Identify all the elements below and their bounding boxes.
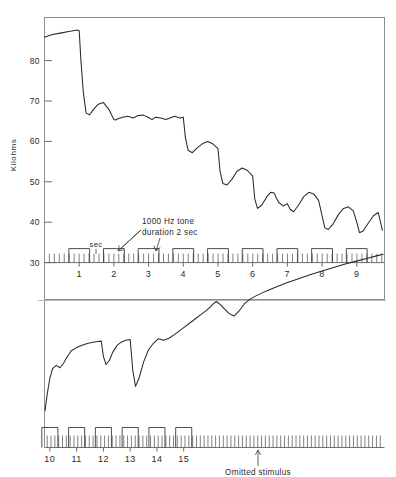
figure-canvas: 80 70 60 50 40 [0,0,396,477]
stimulus-block [176,428,192,448]
x-tick-label: 11 [71,454,81,464]
stimulus-block [149,428,165,448]
x-tick-label: 6 [250,269,256,279]
upper-panel-trace [45,30,383,233]
stimulus-block [95,428,111,448]
lower-stimulus-blocks [42,428,192,448]
y-tick-50: 50 [30,177,52,187]
tone-annotation-line-1: 1000 Hz tone [142,217,194,226]
lower-second-ticks [47,436,380,448]
lower-x-tick-labels: 101112131415 [44,448,189,464]
y-tick-label-40: 40 [30,217,40,227]
sec-label: sec [89,240,102,249]
y-tick-label-30: 30 [30,258,40,268]
y-tick-70: 70 [30,96,52,106]
x-tick-label: 3 [146,269,152,279]
x-tick-label: 4 [181,269,187,279]
x-tick-label: 15 [178,454,189,464]
x-tick-label: 12 [98,454,109,464]
y-tick-40: 40 [30,217,52,227]
y-tick-60: 60 [30,136,52,146]
omitted-stimulus-label: Omitted stimulus [225,468,291,477]
tone-annotation-line-2: duration 2 sec [142,228,198,237]
lower-panel-trace [45,254,383,410]
x-tick-label: 7 [285,269,291,279]
upper-event-marker-row: 123456789 [45,249,385,279]
y-tick-80: 80 [30,56,52,66]
y-tick-label-70: 70 [30,96,40,106]
x-tick-label: 13 [125,454,136,464]
y-axis: 80 70 60 50 40 [9,56,56,268]
y-axis-title: Kilohms [9,139,18,172]
omitted-stimulus-annotation: Omitted stimulus [225,450,291,477]
x-tick-label: 5 [215,269,221,279]
y-tick-label-50: 50 [30,177,40,187]
y-tick-label-60: 60 [30,136,40,146]
upper-panel: 80 70 60 50 40 [9,18,385,300]
x-tick-label: 2 [111,269,117,279]
x-tick-label: 9 [354,269,360,279]
stimulus-block [69,428,85,448]
y-tick-label-80: 80 [30,56,40,66]
upper-panel-frame [45,18,385,300]
upper-second-ticks [49,254,381,263]
x-tick-label: 10 [44,454,55,464]
x-tick-label: 1 [76,269,82,279]
lower-event-marker-row: 101112131415 [42,428,385,464]
x-tick-label: 14 [151,454,162,464]
tone-annotation-arrowhead-1 [118,230,141,251]
omitted-stimulus-arrow [255,450,260,466]
stimulus-block [122,428,138,448]
upper-x-tick-labels: 123456789 [76,263,359,279]
lower-panel: 101112131415 Omitted stimulus [42,254,385,477]
